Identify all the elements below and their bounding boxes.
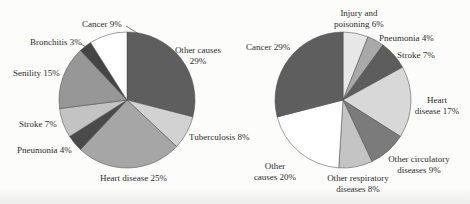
label-left-cancer: Cancer 9% [82, 19, 122, 30]
label-left-stroke: Stroke 7% [19, 119, 57, 130]
label-right-pneumonia: Pneumonia 4% [379, 33, 434, 44]
label-right-injury: Injury and poisoning 6% [327, 8, 391, 29]
label-right-respiratory: Other respiratory diseases 8% [324, 173, 392, 194]
right-pie-chart [275, 32, 411, 168]
label-left-bronchitis: Bronchitis 3% [30, 37, 82, 48]
label-right-cancer: Cancer 29% [246, 42, 290, 53]
label-left-tuberculosis: Tuberculosis 8% [189, 132, 249, 143]
label-right-other-causes: Other causes 20% [251, 161, 299, 182]
label-right-heart: Heart disease 17% [411, 95, 463, 116]
label-left-heart: Heart disease 25% [100, 173, 167, 184]
figure-two-pie-charts: Cancer 9% Bronchitis 3% Senility 15% Str… [0, 0, 470, 204]
label-right-stroke: Stroke 7% [397, 50, 435, 61]
label-left-pneumonia: Pneumonia 4% [17, 145, 72, 156]
label-left-other-causes: Other causes 29% [170, 45, 226, 66]
label-left-senility: Senility 15% [13, 68, 60, 79]
label-right-circulatory: Other circulatory diseases 9% [386, 154, 452, 175]
